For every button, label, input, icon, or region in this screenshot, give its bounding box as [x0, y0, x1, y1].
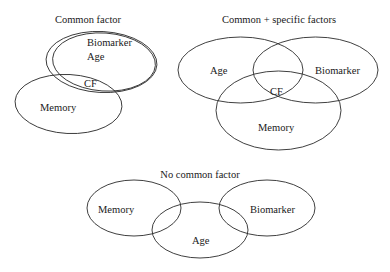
- biomarker-label: Biomarker: [315, 65, 360, 76]
- diagram-title: No common factor: [160, 169, 240, 180]
- diagram-no-common-factor: No common factor Memory Biomarker Age: [87, 169, 315, 258]
- diagram-title: Common factor: [55, 14, 122, 25]
- cf-label: CF: [84, 78, 97, 89]
- age-label: Age: [87, 51, 105, 62]
- memory-label: Memory: [258, 122, 295, 133]
- biomarker-label: Biomarker: [250, 204, 295, 215]
- diagram-common-factor: Common factor Biomarker Age CF Memory: [14, 14, 159, 136]
- memory-label: Memory: [40, 102, 77, 113]
- age-ellipse: [178, 37, 303, 103]
- cf-label: CF: [270, 86, 283, 97]
- age-label: Age: [210, 65, 228, 76]
- venn-diagrams-figure: Common factor Biomarker Age CF Memory Co…: [0, 0, 390, 272]
- memory-ellipse: [216, 71, 341, 150]
- diagram-common-specific-factors: Common + specific factors Age Biomarker …: [178, 14, 378, 150]
- age-label: Age: [192, 235, 210, 246]
- age-ellipse: [152, 202, 248, 258]
- biomarker-label: Biomarker: [87, 37, 132, 48]
- memory-label: Memory: [98, 204, 135, 215]
- diagram-title: Common + specific factors: [222, 14, 336, 25]
